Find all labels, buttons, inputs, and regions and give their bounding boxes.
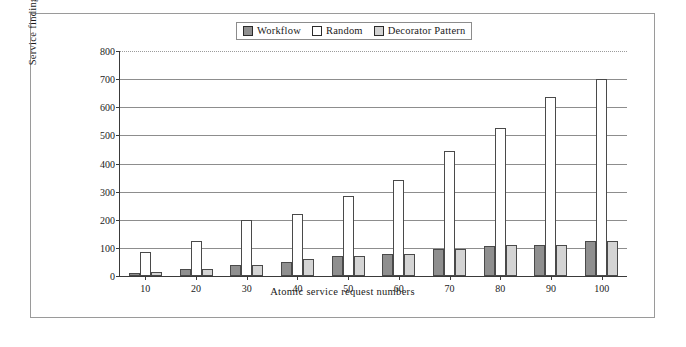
legend-swatch-random	[312, 26, 322, 36]
legend-label-decorator-pattern: Decorator Pattern	[388, 25, 466, 36]
bar-random	[292, 214, 303, 276]
y-axis-title: Service finding time (s)	[27, 0, 38, 92]
chart-legend: Workflow Random Decorator Pattern	[236, 22, 472, 40]
bar-workflow	[180, 269, 191, 276]
legend-swatch-decorator-pattern	[374, 26, 384, 36]
bar-random	[545, 97, 556, 276]
x-axis-tick-mark	[297, 276, 298, 280]
x-axis-tick-mark	[247, 276, 248, 280]
bar-random	[140, 252, 151, 276]
bar-random	[393, 180, 404, 276]
legend-item-decorator-pattern: Decorator Pattern	[374, 25, 466, 36]
bar-group: 60	[374, 51, 425, 276]
bar-group: 80	[475, 51, 526, 276]
bar-decorator-pattern	[506, 245, 517, 276]
bar-random	[495, 128, 506, 276]
x-axis-title: Atomic service request numbers	[31, 286, 654, 297]
bar-group: 20	[171, 51, 222, 276]
x-axis-tick-mark	[500, 276, 501, 280]
bar-workflow	[129, 273, 140, 276]
bar-random	[343, 196, 354, 276]
bar-workflow	[534, 245, 545, 277]
x-axis-tick-mark	[145, 276, 146, 280]
y-axis-tick-label: 100	[100, 242, 115, 253]
legend-item-workflow: Workflow	[243, 25, 301, 36]
y-axis-tick-label: 800	[100, 46, 115, 57]
bar-random	[596, 79, 607, 276]
x-axis-tick-mark	[348, 276, 349, 280]
bar-group: 40	[272, 51, 323, 276]
bar-group: 10	[120, 51, 171, 276]
bar-groups: 102030405060708090100	[120, 51, 627, 276]
y-axis-tick-label: 300	[100, 186, 115, 197]
chart-figure: Workflow Random Decorator Pattern Servic…	[30, 13, 655, 318]
bar-decorator-pattern	[151, 272, 162, 276]
bar-group: 70	[424, 51, 475, 276]
bar-decorator-pattern	[455, 249, 466, 276]
x-axis-tick-mark	[551, 276, 552, 280]
bar-random	[241, 220, 252, 276]
bar-decorator-pattern	[354, 256, 365, 276]
y-axis-tick-label: 700	[100, 74, 115, 85]
y-axis-tick-mark	[116, 276, 120, 277]
bar-workflow	[382, 254, 393, 277]
bar-decorator-pattern	[556, 245, 567, 277]
bar-workflow	[433, 249, 444, 276]
bar-decorator-pattern	[303, 259, 314, 276]
bar-decorator-pattern	[404, 254, 415, 277]
bar-workflow	[281, 262, 292, 276]
bar-group: 30	[221, 51, 272, 276]
bar-workflow	[230, 265, 241, 276]
bar-workflow	[585, 241, 596, 276]
bar-workflow	[484, 246, 495, 276]
bar-decorator-pattern	[607, 241, 618, 276]
y-axis-tick-label: 500	[100, 130, 115, 141]
bar-random	[191, 241, 202, 276]
x-axis-tick-mark	[196, 276, 197, 280]
bar-group: 90	[526, 51, 577, 276]
y-axis-tick-label: 200	[100, 214, 115, 225]
bar-decorator-pattern	[202, 269, 213, 276]
legend-item-random: Random	[312, 25, 363, 36]
legend-label-random: Random	[326, 25, 363, 36]
bar-group: 100	[576, 51, 627, 276]
bar-random	[444, 151, 455, 276]
y-axis-tick-label: 600	[100, 102, 115, 113]
y-axis-tick-label: 400	[100, 158, 115, 169]
x-axis-tick-mark	[450, 276, 451, 280]
bar-workflow	[332, 256, 343, 276]
bar-decorator-pattern	[252, 265, 263, 276]
plot-area: 0100200300400500600700800 10203040506070…	[119, 51, 627, 277]
x-axis-tick-mark	[399, 276, 400, 280]
y-axis-tick-label: 0	[110, 271, 115, 282]
bar-group: 50	[323, 51, 374, 276]
legend-label-workflow: Workflow	[257, 25, 301, 36]
legend-swatch-workflow	[243, 26, 253, 36]
x-axis-tick-mark	[602, 276, 603, 280]
